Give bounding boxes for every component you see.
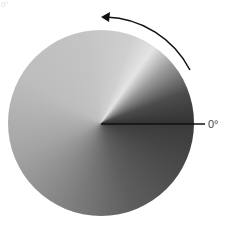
annotation-overlay <box>0 0 231 229</box>
arrow-head-icon <box>101 12 110 22</box>
zero-degree-label: 0° <box>208 118 219 130</box>
rotation-arrow-icon <box>106 17 190 70</box>
